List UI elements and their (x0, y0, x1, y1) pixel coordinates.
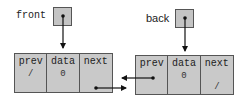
back-arrow (183, 16, 187, 51)
next-link-arrow (94, 86, 126, 90)
front-arrow (61, 14, 65, 48)
prev-link-arrow (122, 76, 155, 80)
pointer-arrows (0, 0, 247, 100)
